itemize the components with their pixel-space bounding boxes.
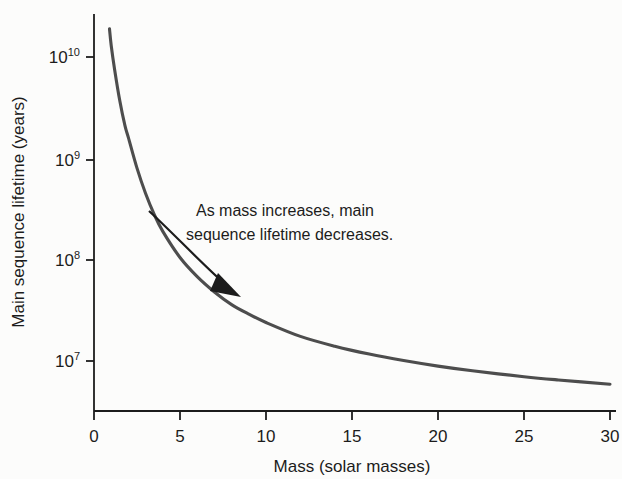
annotation-line-2: sequence lifetime decreases.	[186, 226, 393, 243]
x-tick-label-30: 30	[601, 427, 620, 446]
main-sequence-lifetime-chart: 1010 109 108 107 0 5 10 15 20 25 30 Mass…	[0, 0, 622, 479]
annotation-line-1: As mass increases, main	[196, 202, 374, 219]
x-tick-label-25: 25	[515, 427, 534, 446]
x-axis-title: Mass (solar masses)	[274, 457, 431, 476]
x-tick-label-5: 5	[175, 427, 184, 446]
y-axis-title: Main sequence lifetime (years)	[9, 96, 28, 327]
x-tick-label-15: 15	[343, 427, 362, 446]
x-tick-label-10: 10	[257, 427, 276, 446]
x-tick-label-20: 20	[429, 427, 448, 446]
x-tick-label-0: 0	[89, 427, 98, 446]
chart-figure: 1010 109 108 107 0 5 10 15 20 25 30 Mass…	[0, 0, 622, 479]
